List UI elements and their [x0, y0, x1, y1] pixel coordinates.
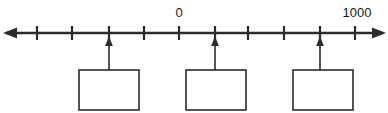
answer-box-2-group[interactable] [186, 70, 246, 110]
pointer-arrow-1 [105, 36, 113, 70]
axis-label-zero: 0 [175, 5, 182, 20]
axis-label-one-thousand: 1000 [343, 5, 372, 20]
answer-box-3[interactable] [293, 70, 353, 110]
pointer-arrow-2-head [211, 36, 219, 46]
pointer-arrow-2 [211, 36, 219, 70]
answer-box-1-group[interactable] [79, 70, 139, 110]
axis-right-arrowhead [372, 28, 386, 39]
answer-box-1[interactable] [79, 70, 139, 110]
answer-box-3-group[interactable] [293, 70, 353, 110]
axis-left-arrowhead [3, 28, 17, 39]
pointer-arrow-1-head [105, 36, 113, 46]
number-line-worksheet: 0 1000 [0, 0, 388, 113]
pointer-arrow-3 [316, 36, 324, 70]
answer-box-2[interactable] [186, 70, 246, 110]
pointer-arrow-3-head [316, 36, 324, 46]
number-line-figure: 0 1000 [0, 0, 388, 113]
number-line-axis [3, 28, 386, 39]
